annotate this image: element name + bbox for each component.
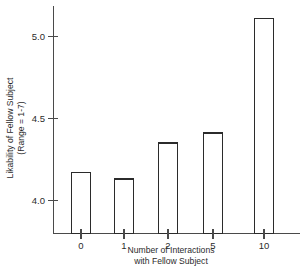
bar-chart-figure: Likability of Fellow Subject (Range = 1-…	[0, 0, 305, 276]
y-tick-label-4-0: 4.0	[32, 195, 45, 206]
x-tick-label-10: 10	[259, 240, 270, 251]
x-tick-label-0: 0	[78, 240, 83, 251]
bar-10	[255, 19, 274, 234]
y-axis-title-line1: Likability of Fellow Subject	[5, 77, 15, 178]
x-tick-label-1: 1	[121, 240, 126, 251]
chart-plot-area: Likability of Fellow Subject (Range = 1-…	[0, 0, 305, 276]
x-axis-title-line1: Number of Interactions	[128, 245, 215, 255]
bar-1	[115, 179, 134, 233]
bar-0	[72, 173, 91, 234]
y-axis-title-line2: (Range = 1-7)	[16, 101, 26, 154]
bar-2	[159, 143, 178, 233]
y-tick-label-4-5: 4.5	[32, 113, 45, 124]
y-tick-label-5-0: 5.0	[32, 31, 45, 42]
bars-group	[72, 19, 274, 234]
bar-5	[204, 133, 223, 233]
x-axis-title-line2: with Fellow Subject	[133, 256, 208, 266]
